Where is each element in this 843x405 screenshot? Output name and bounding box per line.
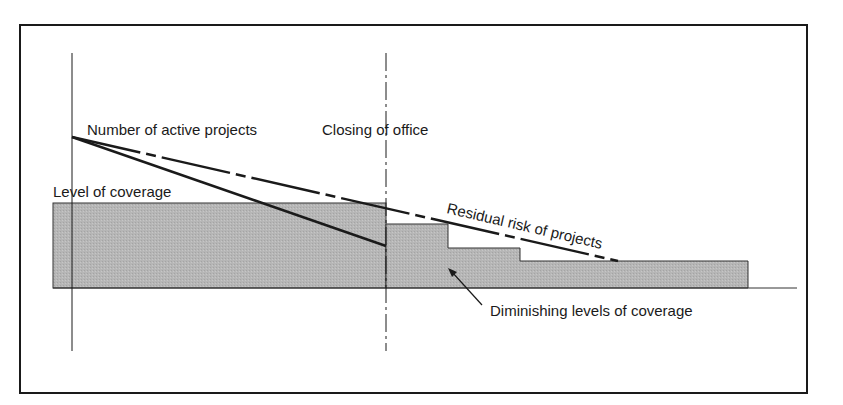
residual-risk-label: Residual risk of projects xyxy=(445,199,604,251)
active-projects-label: Number of active projects xyxy=(87,121,257,138)
closing-office-label: Closing of office xyxy=(322,121,428,138)
coverage-diagram: Number of active projects Closing of off… xyxy=(0,0,843,405)
level-coverage-label: Level of coverage xyxy=(53,183,171,200)
diminishing-coverage-label: Diminishing levels of coverage xyxy=(490,302,693,319)
full-coverage-area xyxy=(53,203,386,288)
